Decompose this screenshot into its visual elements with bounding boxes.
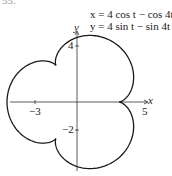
- x-tick-label-neg3: −3: [29, 106, 41, 117]
- y-axis-label: y: [74, 22, 79, 33]
- equation-x: x = 4 cos t − cos 4t: [90, 9, 172, 20]
- y-tick-label-neg2: −2: [62, 124, 74, 135]
- x-tick-label-5: 5: [142, 106, 148, 117]
- parametric-plot: 55. x = 4 cos t − cos 4t y = 4 sin t − s…: [0, 0, 172, 176]
- y-tick-label-4: 4: [68, 40, 74, 51]
- equation-y: y = 4 sin t − sin 4t: [90, 21, 170, 32]
- x-axis-label: x: [148, 95, 153, 106]
